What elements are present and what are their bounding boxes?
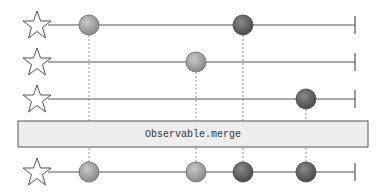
star-icon xyxy=(23,11,51,38)
marble-light xyxy=(186,162,206,182)
operator-box xyxy=(18,121,368,147)
input-stream-1 xyxy=(23,11,355,38)
input-stream-2 xyxy=(23,48,355,75)
star-icon xyxy=(23,85,51,112)
marble-diagram xyxy=(0,0,384,192)
marble-dark xyxy=(233,162,253,182)
output-stream xyxy=(23,158,355,185)
marble-dark xyxy=(296,89,316,109)
marble-light xyxy=(79,162,99,182)
star-icon xyxy=(23,48,51,75)
marble-dark xyxy=(296,162,316,182)
marble-light xyxy=(186,52,206,72)
marble-dark xyxy=(233,15,253,35)
input-stream-3 xyxy=(23,85,355,112)
marble-light xyxy=(79,15,99,35)
star-icon xyxy=(23,158,51,185)
